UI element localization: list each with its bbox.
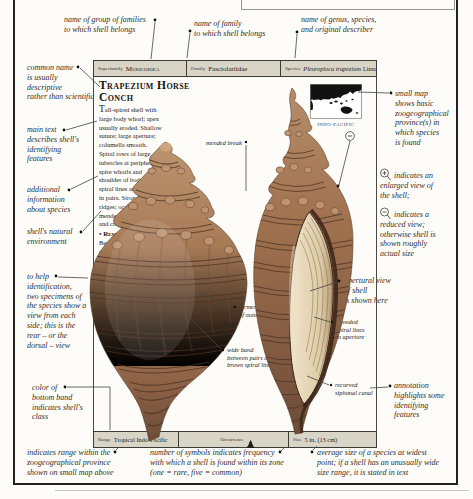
annotation-main-text: main text describes shell's identifying … (27, 125, 79, 164)
page-frame-left (13, 0, 15, 484)
annotation-two-specimens: to help identification, two specimens of… (27, 272, 86, 350)
page-frame-bottom (13, 483, 458, 485)
annotation-range-note: indicates range within the zoogeographic… (27, 448, 114, 477)
family-value: Fasciolariidae (208, 65, 247, 73)
annotation-size-note: average size of a species at widest poin… (317, 448, 439, 477)
annotation-group-families: name of group of families to which shell… (64, 15, 146, 35)
species-name: Pleuroploca trapezium (303, 65, 361, 72)
species-label: Species (285, 66, 300, 71)
magnifier-minus-small-icon (379, 207, 392, 221)
species-author: Linnaeus (363, 65, 376, 72)
annotation-genus: name of genus, species, and original des… (301, 15, 376, 35)
page-edge-shadow (55, 490, 469, 491)
book-page: name of group of families to which shell… (0, 0, 473, 499)
annotation-family: name of family to which shell belongs (194, 19, 265, 39)
dorsal-shell-illustration (84, 138, 250, 444)
species-cell: Species Pleuroploca trapezium Linnaeus (281, 61, 376, 76)
superfamily-label: Superfamily (98, 66, 123, 71)
family-cell: Family Fasciolariidae (187, 61, 281, 76)
taxonomy-bar: Superfamily Muricoidea Family Fasciolari… (93, 60, 377, 77)
family-label: Family (191, 66, 205, 71)
annotation-environment: shell's natural environment (27, 227, 73, 247)
common-name-title: Trapezium Horse Conch (99, 79, 227, 103)
annotation-small-map: small map shows basic zoogeographical pr… (395, 89, 449, 148)
previous-section-box (241, 0, 455, 10)
apertural-shell-illustration (250, 84, 356, 436)
annotation-bottom-band: color of bottom band indicates shell's c… (32, 383, 83, 422)
annotation-highlight-note: annotation highlights some identifying f… (394, 381, 444, 420)
annotation-occurrence-note: number of symbols indicates frequency wi… (150, 448, 284, 477)
superfamily-value: Muricoidea (126, 65, 160, 73)
entry-box-right-edge (376, 77, 377, 431)
magnifier-plus-icon (379, 168, 392, 182)
annotation-common-name: common name is usually descriptive rathe… (27, 63, 94, 102)
page-frame-right (456, 0, 458, 484)
size-label: Size (293, 437, 302, 442)
annotation-additional-info: additional information about species (27, 185, 70, 214)
superfamily-cell: Superfamily Muricoidea (94, 61, 187, 76)
size-value: 5 in. (13 cm) (305, 436, 338, 443)
